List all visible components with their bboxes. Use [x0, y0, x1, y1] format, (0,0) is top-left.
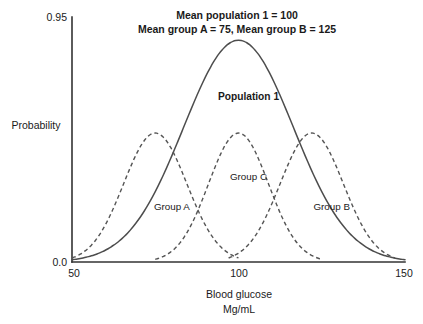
- series-label-population-1: Population 1: [218, 91, 279, 102]
- x-axis-units: Mg/mL: [223, 303, 255, 315]
- y-axis-title: Probability: [11, 119, 61, 131]
- series-curve-population-1: [72, 40, 405, 260]
- chart-title-line-2: Mean group A = 75, Mean group B = 125: [138, 23, 336, 35]
- x-tick-label-150: 150: [395, 267, 413, 279]
- series-label-group-a: Group A: [154, 201, 190, 212]
- chart-figure: Mean population 1 = 100 Mean group A = 7…: [0, 0, 423, 324]
- series-label-group-c: Group C: [230, 171, 267, 182]
- x-tick-label-50: 50: [68, 267, 80, 279]
- series-curve-group-b: [229, 133, 396, 258]
- x-axis-title: Blood glucose: [206, 288, 272, 300]
- x-tick-label-100: 100: [230, 267, 248, 279]
- y-tick-label-min: 0.0: [52, 256, 67, 268]
- series-curve-group-c: [155, 133, 322, 259]
- series-label-group-b: Group B: [313, 201, 350, 212]
- probability-distribution-chart: Mean population 1 = 100 Mean group A = 7…: [0, 0, 423, 324]
- series-curve-group-a: [72, 133, 239, 258]
- curves-group: [72, 40, 405, 260]
- y-tick-label-max: 0.95: [47, 11, 68, 23]
- chart-title-line-1: Mean population 1 = 100: [176, 9, 298, 21]
